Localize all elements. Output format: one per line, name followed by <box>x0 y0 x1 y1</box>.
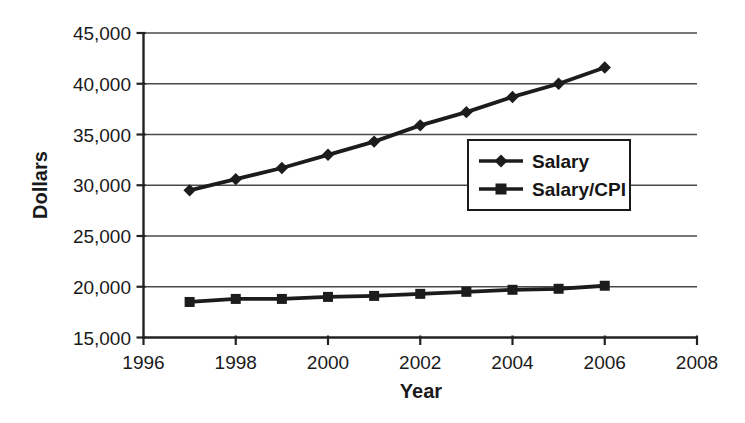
diamond-marker <box>506 91 518 103</box>
square-marker <box>461 287 471 297</box>
x-axis-title: Year <box>386 380 456 403</box>
x-tick-label: 1996 <box>122 352 164 373</box>
square-marker <box>369 291 379 301</box>
y-tick-label: 35,000 <box>73 125 131 146</box>
salary-vs-cpi-line-chart: 15,00020,00025,00030,00035,00040,00045,0… <box>0 0 745 423</box>
y-tick-label: 45,000 <box>73 23 131 44</box>
diamond-marker <box>460 106 472 118</box>
legend-label-salary: Salary <box>532 152 589 171</box>
diamond-marker <box>552 78 564 90</box>
square-marker <box>415 289 425 299</box>
diamond-marker <box>276 162 288 174</box>
legend-item-salary: Salary <box>478 152 625 171</box>
plot-area: 15,00020,00025,00030,00035,00040,00045,0… <box>0 0 745 423</box>
y-tick-label: 30,000 <box>73 175 131 196</box>
salary-cpi-line-square-icon <box>478 181 524 197</box>
diamond-marker <box>414 119 426 131</box>
x-tick-label: 1998 <box>215 352 257 373</box>
legend-item-salary-cpi: Salary/CPI <box>478 180 625 199</box>
y-tick-label: 15,000 <box>73 328 131 349</box>
diamond-marker <box>368 135 380 147</box>
diamond-marker <box>599 61 611 73</box>
square-marker <box>231 294 241 304</box>
square-marker <box>508 285 518 295</box>
x-tick-label: 2002 <box>399 352 441 373</box>
square-marker <box>323 292 333 302</box>
square-marker <box>277 294 287 304</box>
legend-label-salary-cpi: Salary/CPI <box>532 180 626 199</box>
diamond-marker <box>230 173 242 185</box>
y-tick-label: 40,000 <box>73 74 131 95</box>
x-tick-label: 2000 <box>307 352 349 373</box>
diamond-marker <box>322 149 334 161</box>
x-tick-label: 2006 <box>584 352 626 373</box>
series-salary-cpi <box>185 281 610 307</box>
y-axis-title: Dollars <box>29 149 52 221</box>
x-tick-label: 2004 <box>491 352 534 373</box>
legend: Salary Salary/CPI <box>467 139 631 211</box>
y-tick-label: 20,000 <box>73 277 131 298</box>
salary-line-diamond-icon <box>478 153 524 169</box>
square-marker <box>554 284 564 294</box>
square-marker <box>600 281 610 291</box>
y-tick-label: 25,000 <box>73 226 131 247</box>
series-line <box>190 286 605 302</box>
square-marker <box>185 297 195 307</box>
x-tick-label: 2008 <box>676 352 718 373</box>
